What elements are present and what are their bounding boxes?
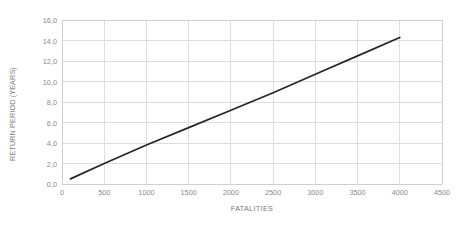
x-tick-label: 1500 <box>181 188 197 197</box>
x-tick-label: 1000 <box>138 188 154 197</box>
x-tick-label: 3000 <box>307 188 323 197</box>
x-tick-label: 500 <box>98 188 110 197</box>
x-axis-title: FATALITIES <box>62 204 442 213</box>
x-tick-label: 2500 <box>265 188 281 197</box>
x-tick-label: 4000 <box>392 188 408 197</box>
x-tick-label: 3500 <box>349 188 365 197</box>
x-tick-label: 0 <box>60 188 64 197</box>
x-axis-tick-labels: 050010001500200025003000350040004500 <box>0 0 472 228</box>
x-tick-label: 2000 <box>223 188 239 197</box>
x-tick-label: 4500 <box>434 188 450 197</box>
line-chart: RETURN PERIOD (YEARS) 0,02,04,06,08,010,… <box>0 0 472 228</box>
